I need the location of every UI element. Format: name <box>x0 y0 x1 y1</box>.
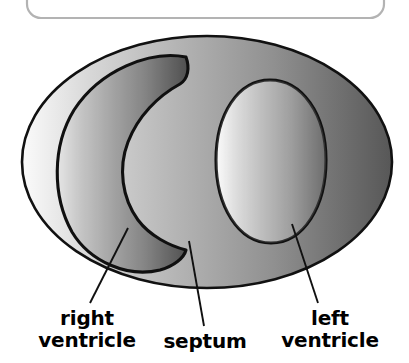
label-septum: septum <box>140 330 270 352</box>
label-left-ventricle-line2: ventricle <box>270 329 390 351</box>
label-right-ventricle-line1: right <box>22 307 152 329</box>
top-panel-frame <box>27 0 384 18</box>
left-ventricle-cavity <box>216 80 326 243</box>
left-ventricle-shading <box>216 80 326 243</box>
label-left-ventricle-line1: left <box>270 307 390 329</box>
label-right-ventricle-line2: ventricle <box>22 329 152 351</box>
label-right-ventricle: right ventricle <box>22 307 152 352</box>
top-panel-rounded-rect <box>27 0 384 18</box>
label-left-ventricle: left ventricle <box>270 307 390 352</box>
label-septum-line1: septum <box>140 330 270 352</box>
